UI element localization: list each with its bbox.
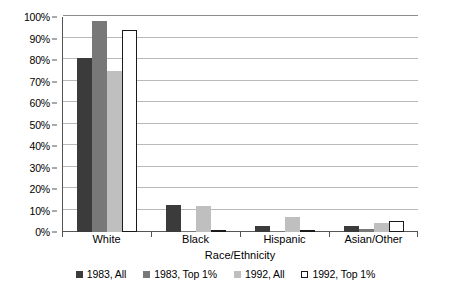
legend-label: 1983, Top 1% xyxy=(154,269,217,280)
y-tick-label: 70% xyxy=(30,76,50,87)
x-category-label: White xyxy=(92,234,120,245)
legend-label: 1983, All xyxy=(87,269,126,280)
y-tick-mark xyxy=(52,189,57,190)
bar xyxy=(196,206,211,232)
y-tick-label: 0% xyxy=(35,227,50,238)
bar-group-asian-other xyxy=(329,17,418,232)
y-tick-label: 90% xyxy=(30,33,50,44)
y-tick-label: 40% xyxy=(30,141,50,152)
y-tick-label: 10% xyxy=(30,205,50,216)
chart-legend: 1983, All1983, Top 1%1992, All1992, Top … xyxy=(0,269,451,280)
legend-swatch-icon xyxy=(76,271,83,278)
bar xyxy=(92,21,107,232)
y-tick-mark xyxy=(52,38,57,39)
y-tick-label: 60% xyxy=(30,98,50,109)
legend-item: 1983, All xyxy=(76,269,126,280)
bar xyxy=(122,30,137,232)
bar xyxy=(107,71,122,232)
y-tick-mark xyxy=(52,210,57,211)
bar xyxy=(166,205,181,232)
y-tick-mark xyxy=(52,60,57,61)
y-tick-mark xyxy=(52,232,57,233)
legend-item: 1992, All xyxy=(234,269,284,280)
legend-item: 1992, Top 1% xyxy=(301,269,375,280)
y-tick-mark xyxy=(52,81,57,82)
x-category-label: Black xyxy=(182,234,209,245)
x-category-label: Asian/Other xyxy=(344,234,402,245)
y-tick-mark xyxy=(52,124,57,125)
y-tick-label: 50% xyxy=(30,119,50,130)
bar xyxy=(285,217,300,232)
y-tick-mark xyxy=(52,103,57,104)
legend-label: 1992, Top 1% xyxy=(312,269,375,280)
y-tick-mark xyxy=(52,167,57,168)
bars-layer xyxy=(62,17,418,232)
x-category-label: Hispanic xyxy=(263,234,305,245)
y-tick-label: 20% xyxy=(30,184,50,195)
x-axis-category-labels: WhiteBlackHispanicAsian/Other xyxy=(62,234,418,250)
bar-group-white xyxy=(62,17,151,232)
bar-chart-figure: 0%10%20%30%40%50%60%70%80%90%100% WhiteB… xyxy=(0,0,451,289)
y-tick-label: 30% xyxy=(30,162,50,173)
bar-group-hispanic xyxy=(240,17,329,232)
legend-swatch-icon xyxy=(301,271,308,278)
legend-item: 1983, Top 1% xyxy=(143,269,217,280)
gridline-100 xyxy=(63,15,418,16)
y-axis: 0%10%20%30%40%50%60%70%80%90%100% xyxy=(0,17,57,232)
bar xyxy=(374,223,389,232)
legend-label: 1992, All xyxy=(245,269,284,280)
bar-group-black xyxy=(151,17,240,232)
y-tick-label: 80% xyxy=(30,55,50,66)
legend-swatch-icon xyxy=(234,271,241,278)
x-axis-title: Race/Ethnicity xyxy=(62,250,418,261)
legend-swatch-icon xyxy=(143,271,150,278)
y-tick-mark xyxy=(52,146,57,147)
bar xyxy=(77,58,92,232)
y-tick-mark xyxy=(52,17,57,18)
y-tick-label: 100% xyxy=(24,12,50,23)
bar xyxy=(389,221,404,232)
